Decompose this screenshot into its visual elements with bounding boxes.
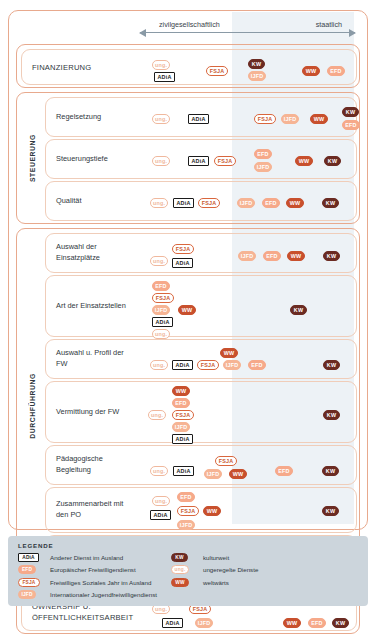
badge-ww: WW bbox=[302, 66, 320, 76]
legend-badge-efd: EFD bbox=[18, 565, 36, 574]
badge-adia: ADiA bbox=[188, 114, 209, 124]
legend-badge-adia: ADiA bbox=[18, 553, 39, 562]
badge-ung: ung. bbox=[150, 256, 168, 266]
badge-ww: WW bbox=[172, 386, 190, 396]
section-steuerung: STEUERUNGRegelsetzungung.ADiAFSJAIJFDWWK… bbox=[16, 92, 360, 224]
legend-item-ijfd: IJFDInternationaler Jugendfreiwilligendi… bbox=[18, 590, 157, 599]
badge-fsja: FSJA bbox=[172, 244, 194, 254]
badge-kw: KW bbox=[332, 618, 349, 628]
badge-ijfd: IJFD bbox=[237, 198, 255, 208]
badge-adia: ADiA bbox=[172, 360, 193, 370]
badge-layer: WWEFDFSJAIJFDADiAung.KW bbox=[2, 382, 362, 442]
legend-item-kw: KWkulturweit bbox=[171, 553, 258, 562]
badge-adia: ADiA bbox=[172, 258, 193, 268]
badge-ijfd: IJFD bbox=[152, 305, 170, 315]
badge-ung: ung. bbox=[150, 360, 168, 370]
badge-layer: ung.ADiAFSJAIJFDWWEFDKW bbox=[2, 446, 362, 484]
legend-item-fsja: FSJAFreiwilliges Soziales Jahr im Auslan… bbox=[18, 578, 157, 587]
legend-label-adia: Anderer Dienst im Ausland bbox=[50, 554, 123, 561]
badge-adia: ADiA bbox=[173, 466, 194, 476]
badge-ww: WW bbox=[286, 198, 304, 208]
legend-key-kw: KW bbox=[171, 553, 197, 562]
badge-kw: KW bbox=[324, 156, 341, 166]
legend-key-ww: WW bbox=[171, 578, 197, 587]
badge-adia: ADiA bbox=[152, 317, 173, 327]
badge-layer: EFDFSJAIJFDADiAung.WWKW bbox=[2, 276, 362, 336]
badge-ijfd: IJFD bbox=[281, 114, 299, 124]
badge-kw: KW bbox=[323, 251, 340, 261]
badge-ww: WW bbox=[283, 618, 301, 628]
badge-layer: ung.ADiAFSJAIJFDEFDWWKW bbox=[2, 182, 362, 220]
legend-key-adia: ADiA bbox=[18, 553, 44, 562]
badge-adia: ADiA bbox=[172, 434, 193, 444]
badge-efd: EFD bbox=[172, 398, 190, 408]
badge-efd: EFD bbox=[275, 466, 293, 476]
row-steuerung-1: Steuerungstiefeung.ADiAFSJAEFDIJFDWWKW bbox=[45, 139, 357, 179]
legend-label-ww: weltwärts bbox=[203, 579, 229, 586]
legend-label-ijfd: Internationaler Jugendfreiwilligendienst bbox=[50, 591, 157, 598]
badge-ijfd: IJFD bbox=[223, 360, 241, 370]
row-steuerung-0: Regelsetzungung.ADiAFSJAIJFDWWKWEFD bbox=[45, 97, 357, 137]
legend-item-ung: ung.ungeregelte Dienste bbox=[171, 565, 258, 574]
legend-title: LEGENDE bbox=[18, 542, 358, 549]
badge-layer: ung.ADiAFSJAEFDIJFDWWKW bbox=[2, 140, 362, 178]
section-finanzierung: FINANZIERUNGung.ADiAFSJAKWIJFDWWEFD bbox=[16, 44, 360, 88]
badge-kw: KW bbox=[322, 198, 339, 208]
badge-efd: EFD bbox=[342, 120, 360, 130]
legend-item-efd: EFDEuropäischer Freiwilligendienst bbox=[18, 565, 157, 574]
legend-badge-kw: KW bbox=[171, 553, 188, 562]
legend-badge-ung: ung. bbox=[171, 565, 189, 574]
badge-adia: ADiA bbox=[154, 72, 175, 82]
badge-ww: WW bbox=[178, 305, 196, 315]
badge-ijfd: IJFD bbox=[172, 422, 190, 432]
badge-ijfd: IJFD bbox=[238, 251, 256, 261]
legend-badge-fsja: FSJA bbox=[18, 578, 40, 587]
badge-efd: EFD bbox=[308, 618, 326, 628]
badge-kw: KW bbox=[322, 506, 339, 516]
legend-column-left: ADiAAnderer Dienst im AuslandEFDEuropäis… bbox=[18, 553, 157, 599]
badge-kw: KW bbox=[323, 410, 340, 420]
badge-ww: WW bbox=[287, 251, 305, 261]
legend-label-efd: Europäischer Freiwilligendienst bbox=[50, 566, 136, 573]
badge-ww: WW bbox=[310, 114, 328, 124]
row-steuerung-2: Qualitätung.ADiAFSJAIJFDEFDWWKW bbox=[45, 181, 357, 221]
badge-adia: ADiA bbox=[162, 618, 183, 628]
badge-kw: KW bbox=[342, 107, 359, 117]
row-durchfuehrung-0: Auswahl der Einsatzplätzeung.FSJAADiAIJF… bbox=[45, 233, 357, 273]
badge-ww: WW bbox=[220, 348, 238, 358]
axis-label-staatlich: staatlich bbox=[313, 20, 345, 29]
badge-efd: EFD bbox=[177, 492, 195, 502]
spectrum-axis: zivilgesellschaftlich staatlich bbox=[140, 22, 355, 40]
badge-fsja: FSJA bbox=[215, 456, 237, 466]
badge-efd: EFD bbox=[248, 360, 266, 370]
badge-kw: KW bbox=[322, 466, 339, 476]
badge-fsja: FSJA bbox=[152, 293, 174, 303]
legend-key-efd: EFD bbox=[18, 565, 44, 574]
badge-ijfd: IJFD bbox=[248, 71, 266, 81]
badge-ung: ung. bbox=[150, 466, 168, 476]
legend-item-ww: WWweltwärts bbox=[171, 578, 258, 587]
row-durchfuehrung-5: Zusammenarbeit mit den POung.EFDFSJAWWAD… bbox=[45, 487, 357, 533]
badge-kw: KW bbox=[248, 59, 265, 69]
badge-fsja: FSJA bbox=[177, 506, 199, 516]
legend-label-kw: kulturweit bbox=[203, 554, 229, 561]
badge-layer: ung.FSJAADiAIJFDEFDWWKW bbox=[2, 234, 362, 272]
badge-fsja: FSJA bbox=[197, 360, 219, 370]
badge-ijfd: IJFD bbox=[204, 469, 222, 479]
badge-kw: KW bbox=[290, 305, 307, 315]
legend-key-ung: ung. bbox=[171, 565, 197, 574]
axis-arrow-line bbox=[140, 32, 355, 33]
badge-layer: ung.WWADiAFSJAIJFDEFDKW bbox=[2, 340, 362, 378]
badge-fsja: FSJA bbox=[214, 156, 236, 166]
badge-efd: EFD bbox=[254, 149, 272, 159]
badge-ijfd: IJFD bbox=[254, 162, 272, 172]
legend-key-ijfd: IJFD bbox=[18, 590, 44, 599]
row-finanzierung-0: FINANZIERUNGung.ADiAFSJAKWIJFDWWEFD bbox=[21, 49, 357, 85]
badge-ww: WW bbox=[295, 156, 313, 166]
row-durchfuehrung-1: Art der EinsatzstellenEFDFSJAIJFDADiAung… bbox=[45, 275, 357, 337]
badge-ijfd: IJFD bbox=[177, 520, 195, 530]
badge-layer: ung.ADiAFSJAKWIJFDWWEFD bbox=[2, 50, 362, 84]
row-durchfuehrung-3: Vermittlung der FWWWEFDFSJAIJFDADiAung.K… bbox=[45, 381, 357, 443]
badge-ung: ung. bbox=[152, 60, 170, 70]
